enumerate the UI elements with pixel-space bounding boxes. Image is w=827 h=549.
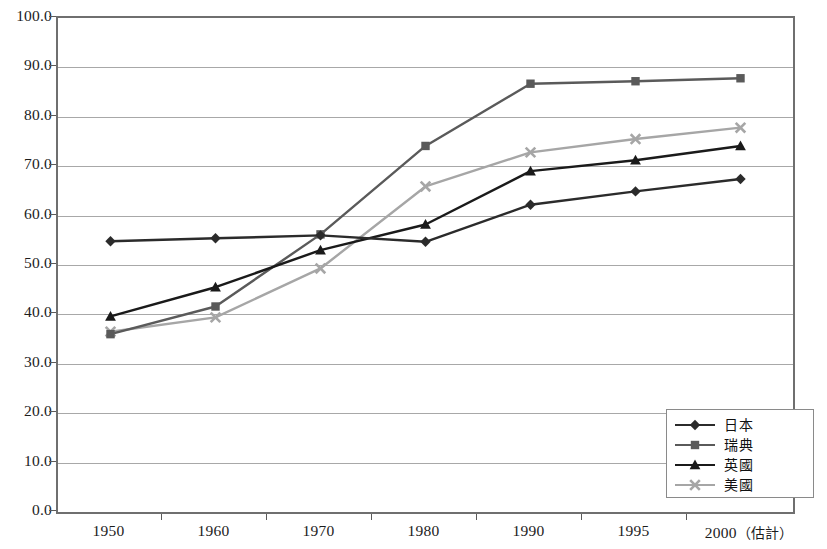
x-axis-tick-mark (371, 514, 372, 520)
line-chart: 0.010.020.030.040.050.060.070.080.090.01… (0, 0, 827, 549)
data-point-square (631, 77, 639, 85)
plot-area: 日本瑞典英國美國 (56, 16, 795, 514)
y-axis-tick-label: 40.0 (0, 303, 52, 321)
legend-item[interactable]: 美國 (667, 475, 813, 495)
x-axis-tick-label: 1950 (93, 522, 125, 540)
x-axis-tick-mark (476, 514, 477, 520)
data-point-square (211, 302, 219, 310)
legend-marker-diamond-icon (675, 417, 715, 433)
legend-label: 英國 (724, 458, 754, 472)
series-line (111, 179, 741, 242)
x-axis: 1950196019701980199019952000（估計） (56, 514, 795, 549)
legend-marker-cross-x-icon (675, 477, 715, 493)
y-axis-tick-label: 60.0 (0, 205, 52, 223)
legend-marker-triangle-icon (675, 457, 715, 473)
legend-marker-square-icon (675, 437, 715, 453)
y-axis-tick-label: 80.0 (0, 106, 52, 124)
y-axis-tick-label: 90.0 (0, 56, 52, 74)
y-axis-tick-mark (49, 510, 56, 511)
data-point-diamond (420, 237, 430, 247)
x-axis-tick-label: 1970 (303, 522, 335, 540)
data-point-diamond (210, 233, 220, 243)
y-axis-tick-mark (49, 65, 56, 66)
y-axis-tick-label: 0.0 (0, 501, 52, 519)
y-axis-tick-label: 20.0 (0, 402, 52, 420)
y-axis: 0.010.020.030.040.050.060.070.080.090.01… (0, 16, 52, 514)
legend-item[interactable]: 英國 (667, 455, 813, 475)
legend-label: 瑞典 (724, 438, 754, 452)
x-axis-tick-label: 1980 (408, 522, 440, 540)
y-axis-tick-mark (49, 115, 56, 116)
y-axis-tick-mark (49, 362, 56, 363)
x-axis-tick-label: 1995 (618, 522, 650, 540)
data-point-square (106, 330, 114, 338)
y-axis-tick-mark (49, 164, 56, 165)
y-axis-tick-mark (49, 312, 56, 313)
x-axis-tick-mark (161, 514, 162, 520)
data-point-diamond (735, 174, 745, 184)
series-line (111, 78, 741, 334)
x-axis-tick-label: 2000（估計） (705, 522, 794, 542)
x-axis-tick-mark (581, 514, 582, 520)
y-axis-tick-mark (49, 263, 56, 264)
legend-label: 日本 (724, 418, 754, 432)
legend: 日本瑞典英國美國 (666, 409, 814, 498)
y-axis-tick-label: 100.0 (0, 7, 52, 25)
data-point-diamond (105, 236, 115, 246)
data-point-square (736, 74, 744, 82)
y-axis-tick-label: 30.0 (0, 353, 52, 371)
legend-item[interactable]: 瑞典 (667, 435, 813, 455)
y-axis-tick-label: 10.0 (0, 452, 52, 470)
data-point-cross-x (690, 480, 700, 490)
y-axis-tick-mark (49, 461, 56, 462)
x-axis-tick-mark (686, 514, 687, 520)
legend-item[interactable]: 日本 (667, 415, 813, 435)
y-axis-tick-label: 50.0 (0, 254, 52, 272)
x-axis-tick-mark (266, 514, 267, 520)
y-axis-tick-mark (49, 214, 56, 215)
data-point-triangle (690, 460, 701, 470)
y-axis-tick-label: 70.0 (0, 155, 52, 173)
data-point-diamond (630, 186, 640, 196)
x-axis-tick-label: 1960 (198, 522, 230, 540)
series-line (111, 146, 741, 316)
legend-label: 美國 (724, 478, 754, 492)
data-point-triangle (420, 219, 431, 229)
data-point-diamond (525, 200, 535, 210)
x-axis-tick-label: 1990 (513, 522, 545, 540)
data-point-square (526, 80, 534, 88)
data-point-square (691, 441, 699, 449)
data-point-square (421, 142, 429, 150)
y-axis-tick-mark (49, 411, 56, 412)
y-axis-tick-mark (49, 16, 56, 17)
data-point-cross-x (316, 264, 326, 274)
data-point-diamond (690, 420, 700, 430)
